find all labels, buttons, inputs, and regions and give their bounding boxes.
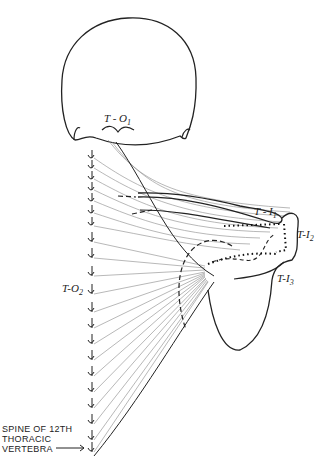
label-t-i3: T-I3 <box>277 272 294 287</box>
label-t-o2: T-O2 <box>62 282 83 297</box>
caption-line-2: THORACIC <box>2 434 72 444</box>
label-t-i1: T - I1 <box>254 205 277 220</box>
caption-line-3: VERTEBRA <box>2 444 72 454</box>
label-t-o1: T - O1 <box>104 112 131 127</box>
muscle-fibers <box>94 140 290 452</box>
occipital-curve <box>102 126 134 132</box>
trapezius-diagram: T - O1 T-O2 T - I1 T-I2 T-I3 SPINE OF 12… <box>0 0 328 468</box>
vertebral-column <box>88 150 94 452</box>
caption-line-1: SPINE OF 12TH <box>2 424 72 434</box>
label-t-i2: T-I2 <box>297 228 314 243</box>
caption: SPINE OF 12TH THORACIC VERTEBRA <box>2 424 72 454</box>
